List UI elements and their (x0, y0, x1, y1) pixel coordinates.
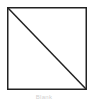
figure-caption: Blank (0, 94, 88, 100)
crossed-square-icon (7, 7, 87, 90)
